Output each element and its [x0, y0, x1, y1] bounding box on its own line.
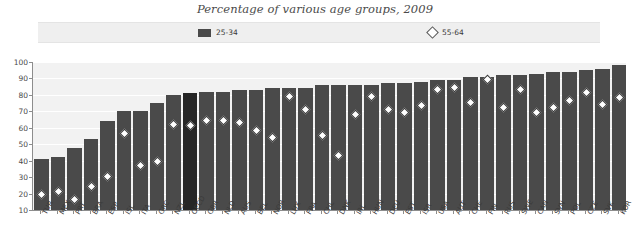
- plot-area: [32, 62, 626, 210]
- bar[interactable]: [397, 83, 412, 210]
- bar-slot: [297, 62, 314, 210]
- bar-slot: [561, 62, 578, 210]
- bar-slot: [330, 62, 347, 210]
- bar-slot: [611, 62, 628, 210]
- bar-slot: [413, 62, 430, 210]
- y-axis-tick-label: 100: [14, 58, 28, 67]
- bar[interactable]: [84, 139, 99, 210]
- bar-slot: [314, 62, 331, 210]
- y-axis-tick-label: 10: [18, 206, 28, 215]
- x-axis-labels: TURMEXPRTBRAESPISLITAGRCNZLOECDGBRNLDAUS…: [32, 212, 626, 249]
- bar[interactable]: [447, 80, 462, 210]
- bar[interactable]: [430, 80, 445, 210]
- bar-slot: [198, 62, 215, 210]
- bar-slot: [578, 62, 595, 210]
- bar[interactable]: [100, 121, 115, 210]
- y-axis-tick-label: 40: [18, 157, 28, 166]
- y-axis-tick-label: 80: [18, 91, 28, 100]
- bar[interactable]: [364, 85, 379, 210]
- bar[interactable]: [265, 88, 280, 210]
- bar-slot: [99, 62, 116, 210]
- bar[interactable]: [513, 75, 528, 210]
- bar-slot: [380, 62, 397, 210]
- bar-slot: [248, 62, 265, 210]
- bar-slot: [149, 62, 166, 210]
- y-axis-tick-label: 50: [18, 140, 28, 149]
- legend-item-55-64[interactable]: 55-64: [428, 23, 464, 42]
- bar-slot: [215, 62, 232, 210]
- bar[interactable]: [381, 83, 396, 210]
- diamond-marker-icon: [426, 26, 439, 39]
- bar-slot: [462, 62, 479, 210]
- bar[interactable]: [232, 90, 247, 210]
- bar[interactable]: [348, 85, 363, 210]
- bar-slot: [347, 62, 364, 210]
- bar[interactable]: [216, 92, 231, 210]
- bar-slot: [132, 62, 149, 210]
- bar-slot: [545, 62, 562, 210]
- bar-slot: [116, 62, 133, 210]
- bar-slot: [446, 62, 463, 210]
- bar-slot: [479, 62, 496, 210]
- bar[interactable]: [249, 90, 264, 210]
- bar[interactable]: [183, 93, 198, 210]
- chart-title: Percentage of various age groups, 2009: [0, 2, 630, 16]
- bar-slot: [396, 62, 413, 210]
- y-axis-labels: 100908070605040302010: [0, 62, 30, 210]
- bar[interactable]: [595, 69, 610, 210]
- bar[interactable]: [480, 77, 495, 210]
- bar[interactable]: [546, 72, 561, 210]
- bar-series: [33, 62, 626, 210]
- bar-slot: [50, 62, 67, 210]
- bar-slot: [281, 62, 298, 210]
- bar-swatch-icon: [198, 29, 211, 37]
- bar[interactable]: [529, 74, 544, 210]
- y-axis-tick-label: 70: [18, 107, 28, 116]
- bar-slot: [594, 62, 611, 210]
- bar-slot: [512, 62, 529, 210]
- bar-slot: [528, 62, 545, 210]
- y-axis-tick-label: 90: [18, 74, 28, 83]
- chart-legend: 25-34 55-64: [38, 22, 600, 43]
- bar-slot: [182, 62, 199, 210]
- bar[interactable]: [166, 95, 181, 210]
- bar-slot: [429, 62, 446, 210]
- bar-slot: [33, 62, 50, 210]
- bar-slot: [83, 62, 100, 210]
- y-axis-tick-label: 60: [18, 124, 28, 133]
- y-axis-tick-label: 20: [18, 190, 28, 199]
- bar-slot: [495, 62, 512, 210]
- bar-slot: [264, 62, 281, 210]
- bar[interactable]: [282, 88, 297, 210]
- bar-slot: [66, 62, 83, 210]
- bar[interactable]: [331, 85, 346, 210]
- bar[interactable]: [315, 85, 330, 210]
- y-axis-tick-label: 30: [18, 173, 28, 182]
- bar[interactable]: [199, 92, 214, 210]
- bar[interactable]: [562, 72, 577, 210]
- bar[interactable]: [496, 75, 511, 210]
- bar-slot: [363, 62, 380, 210]
- bar-slot: [231, 62, 248, 210]
- bar[interactable]: [117, 111, 132, 210]
- bar-slot: [165, 62, 182, 210]
- legend-label-55-64: 55-64: [442, 28, 464, 37]
- legend-label-25-34: 25-34: [216, 28, 238, 37]
- legend-item-25-34[interactable]: 25-34: [198, 23, 238, 42]
- bar[interactable]: [612, 65, 627, 210]
